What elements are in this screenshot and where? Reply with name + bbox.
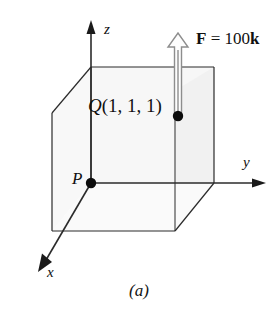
figure-caption: (a) (0, 281, 278, 301)
y-axis-label: y (243, 155, 250, 170)
force-unit-vector: k (250, 29, 259, 48)
force-label: F = 100k (196, 30, 259, 47)
point-Q-coords: (1, 1, 1) (102, 95, 162, 116)
force-equals: = (206, 29, 224, 48)
z-axis-arrowhead (87, 20, 96, 34)
point-Q-name: Q (88, 95, 102, 116)
y-axis-arrowhead (252, 179, 266, 188)
point-Q-label: Q(1, 1, 1) (88, 96, 162, 115)
z-axis-label: z (104, 22, 110, 37)
force-symbol: F (196, 29, 206, 48)
point-P-dot (86, 178, 96, 188)
x-axis-label: x (47, 265, 54, 280)
point-Q-dot (173, 111, 183, 121)
point-P-label: P (72, 170, 82, 187)
figure-container: z y x P Q(1, 1, 1) F = 100k (a) (0, 0, 278, 313)
force-magnitude: 100 (224, 29, 250, 48)
